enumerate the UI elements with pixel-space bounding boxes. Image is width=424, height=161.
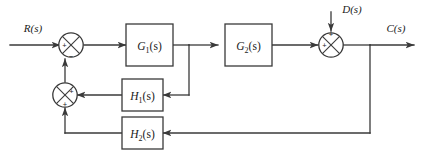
label-reference-input: R(s) bbox=[23, 22, 43, 35]
sum1-sign-bottom: − bbox=[69, 52, 74, 61]
sum2-sign-bottom: + bbox=[63, 100, 68, 109]
sum3-sign-top: + bbox=[329, 30, 334, 39]
summing-junction-feedback: + + bbox=[53, 83, 77, 109]
sum1-sign-left: + bbox=[62, 41, 67, 50]
block-g1[interactable]: G1(s) bbox=[126, 24, 173, 66]
block-diagram-svg: + − + + + + G1(s) bbox=[0, 0, 424, 161]
block-g2-arg: (s) bbox=[249, 40, 261, 53]
block-g2[interactable]: G2(s) bbox=[225, 24, 272, 66]
label-disturbance-input: D(s) bbox=[341, 3, 362, 16]
summing-junction-disturbance: + + bbox=[319, 30, 343, 57]
block-h2-arg: (s) bbox=[143, 128, 155, 141]
sum3-sign-left: + bbox=[322, 41, 327, 50]
block-h1-arg: (s) bbox=[143, 90, 155, 103]
block-diagram-canvas: + − + + + + G1(s) bbox=[0, 0, 424, 161]
sum2-sign-right: + bbox=[69, 87, 74, 96]
summing-junction-input: + − bbox=[59, 33, 83, 61]
block-h1[interactable]: H1(s) bbox=[122, 79, 163, 111]
block-g1-arg: (s) bbox=[150, 40, 162, 53]
label-controlled-output: C(s) bbox=[387, 22, 406, 35]
block-h2[interactable]: H2(s) bbox=[122, 117, 163, 149]
